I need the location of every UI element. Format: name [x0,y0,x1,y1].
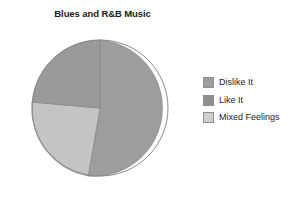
pie-slice-like-it[interactable] [32,40,100,108]
legend-label-mixed-feelings: Mixed Feelings [219,112,280,123]
legend-swatch-icon-dislike-it [203,77,214,88]
legend-label-dislike-it: Dislike It [219,77,253,88]
pie-svg [0,0,205,212]
legend-item-dislike-it[interactable]: Dislike It [203,74,302,92]
legend-swatch-icon-mixed-feelings [203,112,214,123]
pie-chart-figure: Blues and R&B Music Dislike It Like It M… [0,0,302,212]
legend-item-mixed-feelings[interactable]: Mixed Feelings [203,109,302,127]
legend-item-like-it[interactable]: Like It [203,92,302,110]
pie-slice-mixed-feelings[interactable] [32,102,100,176]
legend-swatch-icon-like-it [203,95,214,106]
legend-label-like-it: Like It [219,95,243,106]
chart-legend: Dislike It Like It Mixed Feelings [203,74,302,127]
pie-plot-area [0,0,205,212]
